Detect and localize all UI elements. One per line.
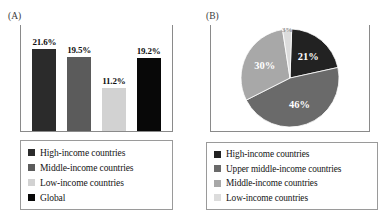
bar-group: 21.6% [32, 25, 56, 131]
legend-item: Upper middle-income countries [214, 162, 371, 177]
panel-a-label: (A) [8, 11, 21, 21]
pie-slice-label: 30% [254, 60, 275, 71]
bar-value-label: 11.2% [102, 76, 125, 86]
bar-rect [102, 88, 126, 131]
legend-swatch-global [28, 194, 35, 201]
legend-swatch-high-income [214, 151, 221, 158]
bar-rect [32, 49, 56, 131]
pie-svg: 21%46%30%3% [240, 28, 340, 128]
pie-panel: (B) 21%46%30%3% High-income countries Up… [196, 0, 387, 224]
legend-label-low-income: Low-income countries [40, 178, 124, 188]
legend-item: High-income countries [214, 147, 371, 162]
figure-root: (A) 21.6%19.5%11.2%19.2% High-income cou… [0, 0, 387, 224]
pie-slice-label: 3% [282, 28, 293, 34]
legend-label-high-income: High-income countries [226, 149, 309, 159]
bar-chart-legend: High-income countries Middle-income coun… [20, 140, 173, 210]
bar-panel: (A) 21.6%19.5%11.2%19.2% High-income cou… [0, 0, 196, 224]
legend-swatch-low-income [28, 179, 35, 186]
bar-rect [137, 58, 161, 131]
legend-label-middle-income: Middle-income countries [226, 178, 317, 188]
legend-label-upper-middle-income: Upper middle-income countries [226, 164, 341, 174]
legend-label-middle-income: Middle-income countries [40, 163, 133, 173]
legend-item: Global [28, 190, 166, 205]
legend-label-global: Global [40, 193, 65, 203]
pie-chart-plot-area: 21%46%30%3% [210, 25, 370, 132]
pie-slice-label: 21% [298, 51, 319, 62]
legend-label-low-income: Low-income countries [226, 193, 308, 203]
legend-item: Low-income countries [214, 191, 371, 206]
legend-item: Middle-income countries [214, 176, 371, 191]
bar-group: 11.2% [102, 25, 126, 131]
legend-item: Middle-income countries [28, 160, 166, 175]
bar-group: 19.5% [67, 25, 91, 131]
pie-chart: 21%46%30%3% [240, 28, 340, 128]
bar-series: 21.6%19.5%11.2%19.2% [21, 25, 172, 131]
legend-swatch-high-income [28, 149, 35, 156]
legend-item: Low-income countries [28, 175, 166, 190]
legend-swatch-upper-middle-income [214, 165, 221, 172]
bar-rect [67, 57, 91, 131]
bar-chart-plot-area: 21.6%19.5%11.2%19.2% [20, 25, 173, 132]
legend-swatch-middle-income [214, 180, 221, 187]
bar-value-label: 21.6% [32, 37, 56, 47]
bar-group: 19.2% [137, 25, 161, 131]
legend-swatch-middle-income [28, 164, 35, 171]
legend-label-high-income: High-income countries [40, 148, 125, 158]
bar-value-label: 19.2% [137, 46, 161, 56]
panel-b-label: (B) [206, 11, 219, 21]
legend-item: High-income countries [28, 145, 166, 160]
pie-slice-label: 46% [289, 99, 310, 110]
pie-chart-legend: High-income countries Upper middle-incom… [206, 142, 378, 210]
legend-swatch-low-income [214, 194, 221, 201]
bar-value-label: 19.5% [67, 45, 91, 55]
